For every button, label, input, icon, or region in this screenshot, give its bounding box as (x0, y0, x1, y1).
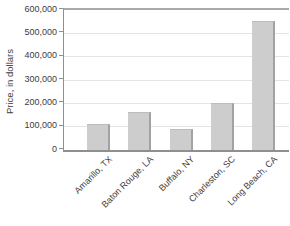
y-tick-label: 400,000 (0, 50, 57, 60)
y-tick-mark (59, 78, 63, 79)
y-tick-label: 200,000 (0, 97, 57, 107)
bar-buffalo-ny (170, 129, 193, 150)
x-tick-label-buffalo-ny: Buffalo, NY (157, 154, 196, 193)
y-tick-label: 100,000 (0, 120, 57, 130)
bar-charleston-sc (211, 103, 234, 150)
plot-area (63, 8, 289, 152)
x-tick-label-amarillo-tx: Amarillo, TX (72, 154, 114, 196)
y-tick-label: 500,000 (0, 27, 57, 37)
bar-amarillo-tx (87, 124, 110, 150)
y-tick-mark (59, 148, 63, 149)
y-tick-mark (59, 125, 63, 126)
bar-chart-figure: Price, in dollars 0100,000200,000300,000… (0, 0, 290, 226)
y-tick-mark (59, 55, 63, 56)
y-tick-mark (59, 31, 63, 32)
y-tick-label: 600,000 (0, 4, 57, 14)
y-tick-label: 0 (0, 144, 57, 154)
bar-baton-rouge-la (128, 112, 151, 151)
y-tick-mark (59, 101, 63, 102)
bar-long-beach-ca (252, 21, 275, 151)
y-tick-mark (59, 8, 63, 9)
y-tick-label: 300,000 (0, 74, 57, 84)
